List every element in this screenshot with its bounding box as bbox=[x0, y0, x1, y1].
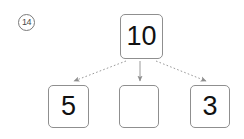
arrow-total-to-part-right bbox=[156, 61, 206, 81]
part-right-box: 3 bbox=[190, 85, 230, 128]
part-left-box: 5 bbox=[48, 85, 89, 128]
worksheet-canvas: 14 10 5 3 bbox=[0, 0, 244, 139]
arrow-total-to-part-left bbox=[74, 61, 126, 81]
part-middle-box[interactable] bbox=[119, 85, 159, 128]
total-box: 10 bbox=[120, 14, 163, 59]
problem-number-marker: 14 bbox=[18, 14, 35, 31]
